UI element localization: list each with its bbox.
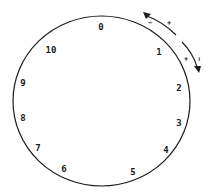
arrowhead-icon	[143, 12, 151, 19]
position-label-1: 1	[156, 47, 161, 57]
position-label-4: 4	[163, 145, 169, 155]
position-label-2: 2	[176, 83, 181, 93]
position-label-7: 7	[35, 143, 40, 153]
dial-circle	[13, 16, 190, 186]
counterclockwise-arrow: − +	[143, 12, 176, 35]
dial-diagram: 0 1 2 3 4 5 6 7 8 9 10 − + + −	[0, 0, 213, 195]
position-label-9: 9	[20, 78, 25, 88]
position-label-8: 8	[20, 113, 25, 123]
arrowhead-icon	[194, 66, 201, 73]
position-label-6: 6	[61, 164, 66, 174]
plus-sign: +	[167, 19, 171, 27]
position-label-0: 0	[98, 22, 103, 32]
dial-labels: 0 1 2 3 4 5 6 7 8 9 10	[20, 22, 181, 177]
plus-sign: +	[184, 55, 188, 63]
position-label-5: 5	[130, 167, 135, 177]
clockwise-arrow: + −	[182, 42, 203, 73]
minus-sign: −	[148, 19, 152, 27]
minus-sign: −	[195, 57, 203, 61]
position-label-3: 3	[176, 118, 181, 128]
position-label-10: 10	[46, 45, 57, 55]
